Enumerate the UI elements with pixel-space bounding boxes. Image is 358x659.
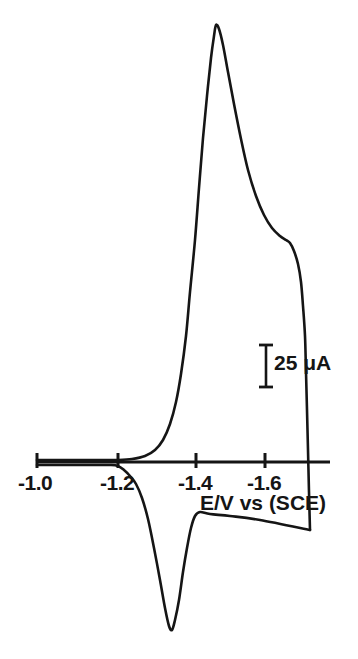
x-axis-tick-label-3: -1.6: [247, 472, 281, 493]
x-axis-tick-label-2: -1.4: [178, 472, 212, 493]
forward-cathodic-sweep-trace: [37, 25, 310, 530]
x-axis-tick-label-0: -1.0: [18, 472, 52, 493]
current-scale-bar: [259, 345, 273, 387]
voltammogram-plot: [0, 0, 358, 659]
scale-bar-label: 25 μA: [274, 352, 331, 373]
cyclic-voltammogram-figure: -1.0-1.2-1.4-1.6 E/V vs (SCE) 25 μA: [0, 0, 358, 659]
trace-group: [37, 25, 310, 631]
x-axis-tick-label-1: -1.2: [100, 472, 134, 493]
x-axis-title: E/V vs (SCE): [200, 492, 326, 513]
